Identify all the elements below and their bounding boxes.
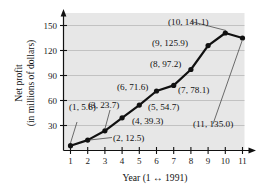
point-label-11: (11, 135.0) [193, 119, 233, 129]
x-tick-label-2: 2 [85, 156, 90, 166]
point-label-7: (7, 78.1) [178, 85, 209, 95]
chart-figure: 150 120 90 60 30 1 2 3 4 [0, 0, 263, 194]
point-label-10: (10, 141.1) [168, 17, 209, 27]
x-tick-label-8: 8 [189, 156, 194, 166]
point-label-6: (6, 71.6) [117, 82, 148, 92]
point-label-2: (2, 12.5) [113, 133, 144, 143]
x-tick-label-11: 11 [238, 156, 247, 166]
data-point-3 [102, 128, 107, 133]
data-point-1 [68, 143, 73, 148]
data-point-6 [154, 88, 159, 93]
y-tick-label-120: 120 [44, 46, 58, 56]
point-label-3: (3, 23.7) [88, 100, 119, 110]
x-axis-title: Year (1 ↔ 1991) [123, 172, 188, 184]
x-tick-label-7: 7 [171, 156, 176, 166]
x-tick-label-10: 10 [221, 156, 231, 166]
x-tick-labels: 1 2 3 4 5 6 7 8 9 10 11 [68, 156, 247, 166]
y-tick-label-90: 90 [48, 71, 58, 81]
y-tick-label-30: 30 [48, 121, 58, 131]
y-axis-title-line1: Net profit [13, 64, 24, 102]
y-tick-labels: 150 120 90 60 30 [44, 21, 58, 131]
data-point-7 [171, 83, 176, 88]
point-label-4: (4, 39.3) [132, 116, 163, 126]
x-tick-label-6: 6 [154, 156, 159, 166]
x-tick-label-4: 4 [120, 156, 125, 166]
x-axis-arrow [249, 148, 257, 154]
data-point-4 [120, 115, 125, 120]
y-axis-arrow [61, 9, 67, 17]
data-point-11 [240, 35, 245, 40]
x-tick-label-5: 5 [137, 156, 142, 166]
x-tick-label-9: 9 [206, 156, 211, 166]
net-profit-line-chart: 150 120 90 60 30 1 2 3 4 [0, 0, 263, 194]
y-tick-label-150: 150 [44, 21, 58, 31]
y-axis-title-line2: (in millions of dollars) [25, 40, 37, 127]
plot-area-background [64, 13, 245, 150]
point-label-9: (9, 125.9) [152, 38, 188, 48]
point-label-8: (8, 97.2) [150, 59, 181, 69]
point-label-5: (5, 54.7) [148, 102, 179, 112]
y-tick-label-60: 60 [48, 96, 58, 106]
data-point-5 [137, 103, 142, 108]
data-point-9 [206, 43, 211, 48]
data-point-10 [223, 30, 228, 35]
data-point-8 [188, 67, 193, 72]
x-tick-label-1: 1 [68, 156, 73, 166]
x-tick-label-3: 3 [103, 156, 108, 166]
